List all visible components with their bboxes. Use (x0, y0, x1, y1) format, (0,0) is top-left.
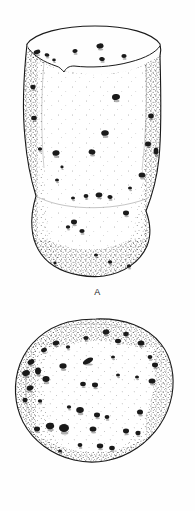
pit-shadow (47, 429, 53, 432)
figure-panel-a: A (0, 0, 195, 300)
pit (71, 196, 75, 199)
pit (109, 446, 115, 450)
pit-shadow (111, 450, 115, 452)
pit-shadow (35, 54, 40, 56)
pit-shadow (136, 379, 139, 380)
pit (92, 383, 98, 388)
pit (149, 378, 156, 383)
pit-shadow (35, 431, 40, 433)
pit-shadow (101, 61, 105, 63)
pit (138, 340, 145, 345)
pit (154, 147, 159, 154)
pit-shadow (61, 369, 66, 371)
pit (55, 178, 59, 181)
figure-a-caption: A (0, 287, 195, 297)
pit-shadow (112, 359, 115, 360)
specimen-b-body (0, 305, 195, 480)
pit-shadow (32, 89, 36, 91)
pit (34, 427, 40, 432)
figure-b-drawing (0, 305, 195, 480)
pit (83, 336, 88, 340)
pit (111, 355, 115, 358)
pit-shadow (109, 199, 113, 201)
pit-shadow (104, 334, 109, 336)
pit-shadow (95, 417, 100, 419)
pit-shadow (54, 345, 59, 347)
pit (38, 399, 42, 403)
pit-shadow (128, 268, 131, 270)
pit-shadow (42, 352, 47, 354)
pit-shadow (138, 414, 143, 416)
figure-a-drawing (0, 0, 195, 285)
pit-shadow (95, 257, 98, 258)
pit (123, 211, 129, 216)
pit-shadow (53, 62, 56, 63)
pit (148, 355, 153, 359)
pit-shadow (81, 233, 85, 235)
pit-shadow (79, 447, 83, 449)
specimen-a-body (0, 0, 195, 285)
pit-shadow (97, 197, 102, 199)
pit (84, 194, 89, 198)
pit-shadow (85, 340, 89, 342)
pit (58, 449, 62, 452)
pit (137, 409, 143, 414)
pit-shadow (106, 419, 110, 421)
figure-plate: A (0, 0, 195, 511)
pit-shadow (72, 224, 77, 226)
pit-shadow (124, 433, 129, 435)
pit-shadow (67, 229, 70, 231)
pit-shadow (91, 431, 96, 433)
pit (90, 426, 97, 431)
pit-shadow (33, 120, 37, 122)
pit (53, 262, 56, 265)
pit (123, 429, 129, 434)
pit-shadow (90, 154, 95, 156)
pit (108, 260, 112, 264)
pit (76, 407, 84, 413)
pit-shadow (44, 382, 49, 385)
pit (148, 114, 154, 119)
pit (97, 444, 103, 449)
pit-shadow (72, 200, 75, 201)
pit (115, 339, 121, 343)
pit (44, 53, 49, 57)
pit (94, 413, 100, 418)
pit-shadow (93, 387, 98, 389)
pit (116, 373, 120, 376)
pit-shadow (124, 215, 129, 217)
pit (60, 166, 63, 169)
pit-shadow (74, 53, 78, 55)
pit (121, 54, 126, 58)
pit (78, 443, 83, 447)
pit-shadow (54, 265, 56, 266)
pit-shadow (117, 377, 120, 378)
pit-shadow (125, 336, 129, 338)
pit-shadow (28, 390, 33, 392)
pit-shadow (109, 264, 112, 266)
pit-shadow (150, 118, 154, 120)
pit (105, 415, 110, 419)
pit-shadow (150, 383, 155, 385)
pit (52, 59, 56, 62)
pit-shadow (98, 448, 103, 450)
pit (31, 116, 37, 120)
pit (71, 220, 77, 225)
pit-shadow (116, 343, 121, 345)
pit-shadow (24, 402, 28, 404)
pit-shadow (129, 190, 132, 191)
pit-shadow (68, 409, 71, 411)
pit-shadow (139, 345, 144, 347)
pit-shadow (67, 349, 70, 351)
pit-shadow (114, 100, 120, 103)
pit (80, 382, 86, 386)
pit-shadow (123, 58, 127, 60)
pit-shadow (103, 136, 109, 138)
pit-shadow (146, 146, 151, 148)
pit (135, 375, 139, 378)
pit (35, 368, 41, 375)
pit-shadow (56, 182, 59, 183)
pit (59, 424, 69, 432)
pit-shadow (153, 367, 158, 369)
pit (22, 398, 27, 402)
